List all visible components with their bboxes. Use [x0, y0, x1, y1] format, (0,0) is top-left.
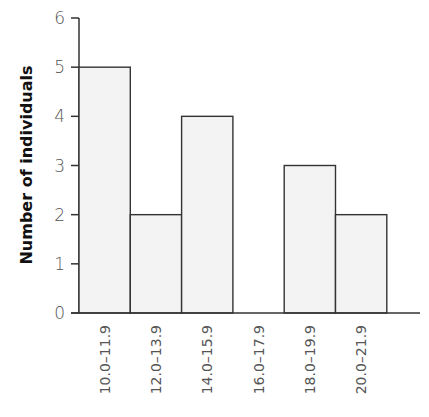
x-tick-label: 16.0–17.9	[251, 325, 267, 394]
y-tick-label: 3	[54, 156, 65, 176]
y-axis: 0123456	[54, 8, 79, 323]
x-axis: 10.0–11.912.0–13.914.0–15.916.0–17.918.0…	[71, 313, 420, 394]
x-tick-label: 14.0–15.9	[199, 325, 215, 394]
x-tick-label: 12.0–13.9	[148, 325, 164, 394]
bar-18.0–19.9	[284, 166, 335, 314]
x-tick-label: 18.0–19.9	[302, 325, 318, 394]
bar-12.0–13.9	[130, 215, 181, 313]
x-tick-label: 20.0–21.9	[353, 325, 369, 394]
bar-10.0–11.9	[79, 67, 130, 313]
y-tick-label: 0	[54, 303, 65, 323]
bar-14.0–15.9	[182, 116, 233, 313]
x-tick-label: 10.0–11.9	[97, 325, 113, 394]
y-axis-label: Number of individuals	[17, 65, 36, 264]
histogram-chart: 0123456 10.0–11.912.0–13.914.0–15.916.0–…	[0, 0, 429, 417]
bar-20.0–21.9	[336, 215, 387, 313]
y-tick-label: 6	[54, 8, 65, 28]
y-tick-label: 2	[54, 205, 65, 225]
y-tick-label: 4	[54, 106, 65, 126]
bars	[79, 67, 387, 313]
y-tick-label: 1	[54, 254, 65, 274]
y-tick-label: 5	[54, 57, 65, 77]
